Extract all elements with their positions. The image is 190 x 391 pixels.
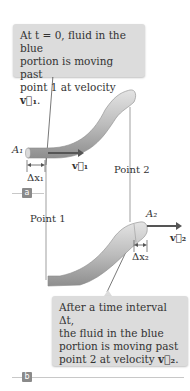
panel-b-tag: b xyxy=(22,372,32,382)
panel-a-tag: a xyxy=(22,188,32,198)
point-2-label: Point 2 xyxy=(114,164,150,175)
velocity-2-label: v⃗₂ xyxy=(170,232,186,243)
velocity-1-label: v⃗₁ xyxy=(72,160,88,171)
panel-b-divider xyxy=(12,377,184,378)
callout-later-state: After a time interval Δt, the fluid in t… xyxy=(52,296,188,366)
area-1-label: A₁ xyxy=(12,144,23,155)
point-1-label: Point 1 xyxy=(30,213,66,224)
dx1-label: Δx₁ xyxy=(27,172,44,183)
dx2-label: Δx₂ xyxy=(132,251,149,262)
area-2-label: A₂ xyxy=(146,208,157,219)
callout-initial-state: At t = 0, fluid in the blue portion is m… xyxy=(13,24,145,77)
velocity-2-arrowhead xyxy=(176,222,182,230)
pipe-end-a1 xyxy=(26,148,31,158)
